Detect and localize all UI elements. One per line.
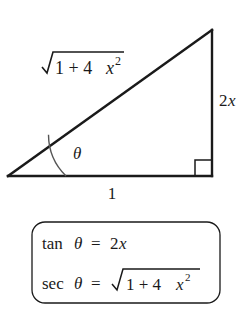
sec-radicand-base: 1 + 4 (126, 275, 162, 294)
tan-equals-sign: = (91, 234, 101, 253)
sec-angle-symbol: θ (74, 274, 82, 293)
hypotenuse-radicand-exponent: 2 (115, 54, 121, 68)
trig-triangle-figure: θ 1 2 x 1 + 4 x 2 tan θ = 2 x sec θ = 1 … (0, 0, 250, 315)
vertical-side-coefficient: 2 (219, 91, 228, 110)
tan-value-coefficient: 2 (110, 234, 119, 253)
sec-radicand-variable: x (175, 275, 184, 294)
hypotenuse-radicand-base: 1 + 4 (55, 58, 92, 78)
vertical-side-label: 2 x (219, 91, 236, 110)
sec-function-label: sec (42, 274, 64, 293)
sec-equals-sign: = (91, 274, 101, 293)
sec-radicand-exponent: 2 (185, 271, 191, 283)
vertical-side-variable: x (227, 91, 236, 110)
base-length-label: 1 (108, 184, 117, 203)
tan-function-label: tan (42, 234, 63, 253)
tan-value-variable: x (118, 234, 127, 253)
hypotenuse-radicand-variable: x (105, 58, 114, 78)
angle-theta-label: θ (73, 144, 81, 163)
tan-angle-symbol: θ (74, 234, 82, 253)
